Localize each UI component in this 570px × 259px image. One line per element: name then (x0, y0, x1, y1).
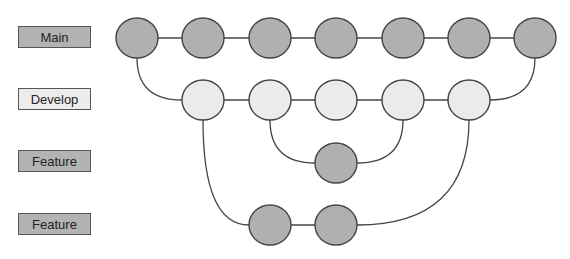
feature2-commit-node (315, 205, 357, 245)
main-to-develop-edge (137, 58, 182, 100)
develop-commit-node (249, 80, 291, 120)
main-commit-node (315, 18, 357, 58)
main-commit-node (182, 18, 224, 58)
develop-commit-node (315, 80, 357, 120)
develop-to-main-edge (490, 58, 535, 100)
feature2-commit-node (249, 205, 291, 245)
feature1-to-develop-edge (357, 120, 403, 163)
main-commit-node (116, 18, 158, 58)
feature1-commit-node (315, 143, 357, 183)
develop-commit-node (182, 80, 224, 120)
feature2-to-develop-edge (357, 120, 469, 225)
main-commit-node (382, 18, 424, 58)
develop-commit-node (382, 80, 424, 120)
branch-graph (0, 0, 570, 259)
develop-commit-node (448, 80, 490, 120)
develop-to-feature1-edge (270, 120, 315, 163)
develop-to-feature2-edge (203, 120, 249, 225)
main-commit-node (514, 18, 556, 58)
main-commit-node (249, 18, 291, 58)
main-commit-node (448, 18, 490, 58)
